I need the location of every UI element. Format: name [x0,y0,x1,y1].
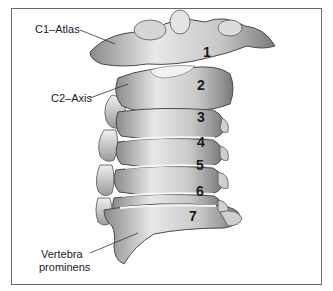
vertebra-number-1: 1 [203,44,211,60]
label-vertebra-prominens-1: Vertebra [41,248,83,260]
vertebra-number-3: 3 [197,109,205,125]
vertebra-number-7: 7 [189,208,197,224]
label-vertebra-prominens-2: prominens [39,261,90,273]
vertebra-number-2: 2 [197,77,205,93]
vertebra-c1-atlas [90,10,275,66]
vertebra-c2-axis [116,66,233,113]
vertebra-c3 [116,108,224,139]
vertebra-c4 [116,138,222,167]
label-c1-atlas: C1–Atlas [35,23,80,35]
vertebra-c7 [104,204,240,264]
vertebra-number-4: 4 [197,134,205,150]
vertebra-number-5: 5 [196,157,204,173]
label-c2-axis: C2–Axis [51,92,92,104]
vertebra-number-6: 6 [196,183,204,199]
vertebra-c5 [114,166,222,195]
